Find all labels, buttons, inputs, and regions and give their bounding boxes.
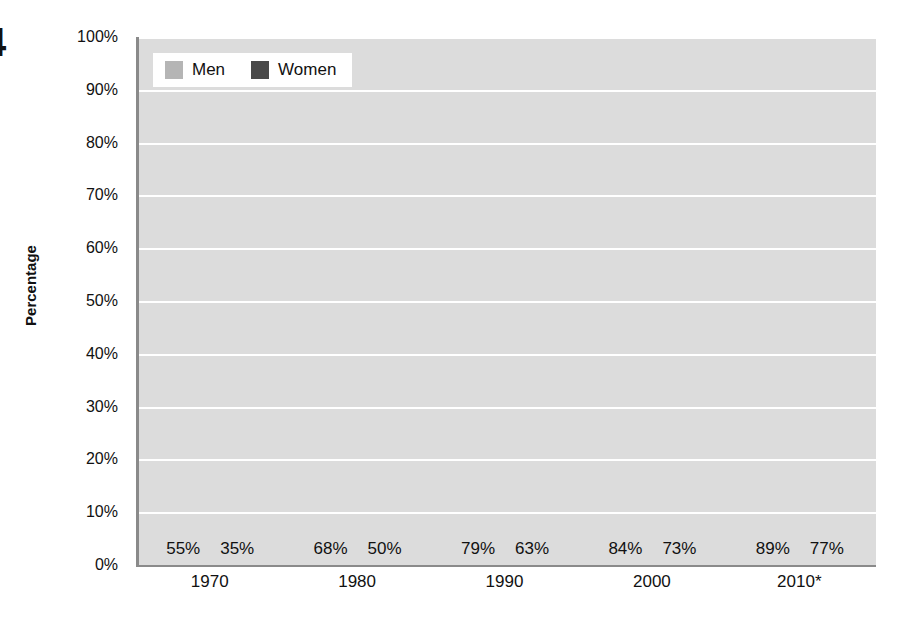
y-axis-tick: 60% [86, 239, 118, 257]
bar-value-label: 84% [608, 539, 642, 559]
x-axis-tick: 2010* [726, 572, 873, 592]
bar-group: 79%63% [434, 37, 581, 565]
bar-group: 68%50% [286, 37, 433, 565]
x-axis-tick: 1980 [283, 572, 430, 592]
chart-legend: MenWomen [153, 53, 352, 87]
bar-value-label: 73% [662, 539, 696, 559]
plot-area: 55%35%68%50%79%63%84%73%89%77% MenWomen [136, 37, 876, 567]
y-axis-tick: 50% [86, 292, 118, 310]
bar-group: 89%77% [729, 37, 876, 565]
legend-item[interactable]: Men [165, 60, 225, 80]
legend-label: Women [278, 60, 336, 80]
x-axis-tick-labels: 19701980199020002010* [136, 572, 873, 592]
legend-swatch-icon [251, 61, 269, 79]
legend-label: Men [192, 60, 225, 80]
bar-value-label: 79% [461, 539, 495, 559]
bar-group: 55%35% [139, 37, 286, 565]
y-axis-tick: 100% [77, 28, 118, 46]
y-axis-tick: 30% [86, 398, 118, 416]
bar-value-label: 35% [220, 539, 254, 559]
y-axis-tick: 90% [86, 81, 118, 99]
figure-number-fragment: 4 [0, 22, 6, 62]
x-axis-tick: 1990 [431, 572, 578, 592]
y-axis-tick: 0% [95, 556, 118, 574]
y-axis-tick: 40% [86, 345, 118, 363]
bar-groups: 55%35%68%50%79%63%84%73%89%77% [139, 37, 876, 565]
bar-value-label: 63% [515, 539, 549, 559]
bar-value-label: 50% [368, 539, 402, 559]
legend-swatch-icon [165, 61, 183, 79]
bar-value-label: 89% [756, 539, 790, 559]
y-axis-title: Percentage [10, 0, 50, 570]
bar-group: 84%73% [581, 37, 728, 565]
y-axis-tick: 70% [86, 186, 118, 204]
x-axis-tick: 1970 [136, 572, 283, 592]
bar-value-label: 55% [166, 539, 200, 559]
bar-value-label: 77% [810, 539, 844, 559]
legend-item[interactable]: Women [251, 60, 336, 80]
bar-value-label: 68% [314, 539, 348, 559]
y-axis-tick: 10% [86, 503, 118, 521]
y-axis-tick: 20% [86, 450, 118, 468]
x-axis-tick: 2000 [578, 572, 725, 592]
y-axis-tick-labels: 100%90%80%70%60%50%40%30%20%10%0% [48, 37, 126, 565]
y-axis-tick: 80% [86, 134, 118, 152]
y-axis-title-label: Percentage [22, 245, 39, 326]
